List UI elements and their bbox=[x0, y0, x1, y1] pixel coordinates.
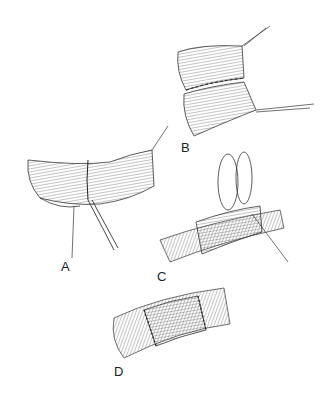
panel-b-drawing bbox=[178, 26, 314, 136]
panel-label-c: C bbox=[157, 269, 166, 284]
surgical-illustration bbox=[0, 0, 332, 401]
panel-label-d: D bbox=[114, 364, 123, 379]
panel-c-drawing bbox=[160, 152, 288, 262]
illustration-drawing bbox=[0, 0, 332, 401]
panel-label-a: A bbox=[61, 259, 70, 274]
panel-a-drawing bbox=[28, 126, 168, 258]
panel-label-b: B bbox=[181, 140, 190, 155]
panel-d-drawing bbox=[113, 288, 230, 358]
